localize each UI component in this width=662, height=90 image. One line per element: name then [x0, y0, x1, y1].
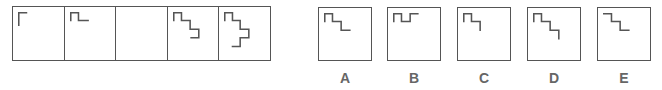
option-c-figure-icon: [458, 8, 510, 60]
sequence-cell-4: [167, 6, 220, 61]
option-c-label: C: [457, 70, 511, 86]
option-e[interactable]: E: [597, 7, 651, 86]
option-b-figure-icon: [388, 8, 440, 60]
option-e-figure-icon: [598, 8, 650, 60]
figure-corner-icon: [13, 7, 64, 60]
option-a-figure-icon: [319, 8, 371, 60]
option-d-label: D: [527, 70, 581, 86]
option-e-box[interactable]: [597, 7, 651, 61]
sequence-strip: [12, 6, 271, 61]
figure-single-step-icon: [65, 7, 116, 60]
figure-triple-step-icon: [219, 7, 270, 60]
sequence-cell-3-blank[interactable]: [115, 6, 168, 61]
option-c-box[interactable]: [457, 7, 511, 61]
sequence-cell-5: [218, 6, 271, 61]
sequence-cell-2: [64, 6, 117, 61]
option-a-box[interactable]: [318, 7, 372, 61]
figure-double-step-icon: [168, 7, 219, 60]
option-a-label: A: [318, 70, 372, 86]
sequence-cell-1: [12, 6, 65, 61]
option-b-box[interactable]: [387, 7, 441, 61]
option-d-figure-icon: [528, 8, 580, 60]
option-e-label: E: [597, 70, 651, 86]
option-c[interactable]: C: [457, 7, 511, 86]
option-b[interactable]: B: [387, 7, 441, 86]
option-a[interactable]: A: [318, 7, 372, 86]
option-d-box[interactable]: [527, 7, 581, 61]
option-b-label: B: [387, 70, 441, 86]
option-d[interactable]: D: [527, 7, 581, 86]
